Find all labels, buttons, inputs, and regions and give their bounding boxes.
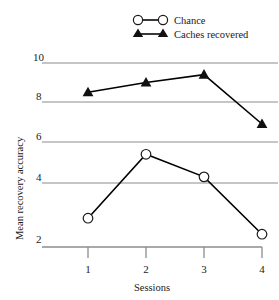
- chart-legend: Chance Caches recovered: [133, 15, 249, 40]
- data-point-open-circle[interactable]: [257, 229, 267, 239]
- y-axis-tick-labels: 10 8 6 4 2: [33, 51, 45, 245]
- series-line: [88, 75, 262, 124]
- legend-item-caches-recovered[interactable]: Caches recovered: [133, 28, 249, 40]
- x-axis: [42, 247, 262, 258]
- x-axis-tick-labels: 1 2 3 4: [85, 263, 265, 275]
- y-tick-label-2: 2: [36, 233, 42, 245]
- filled-triangle-icon: [158, 28, 168, 37]
- y-tick-label-4: 4: [36, 171, 42, 183]
- x-tick-label-4: 4: [259, 263, 265, 275]
- data-point-open-circle[interactable]: [199, 172, 209, 182]
- recovery-accuracy-line-chart: Chance Caches recovered 10 8 6 4 2 Mean: [0, 0, 279, 300]
- data-point-filled-triangle[interactable]: [199, 69, 210, 79]
- chart-container: Chance Caches recovered 10 8 6 4 2 Mean: [0, 0, 279, 300]
- x-tick-label-2: 2: [143, 263, 149, 275]
- data-point-open-circle[interactable]: [83, 213, 93, 223]
- x-tick-label-1: 1: [85, 263, 91, 275]
- series-chance: [83, 150, 267, 240]
- x-tick-label-3: 3: [201, 263, 207, 275]
- legend-label-caches-recovered: Caches recovered: [174, 29, 249, 40]
- y-tick-label-6: 6: [36, 130, 42, 142]
- series-line: [88, 154, 262, 234]
- chart-series-layer: [83, 69, 268, 239]
- x-axis-title: Sessions: [134, 282, 170, 293]
- filled-triangle-icon: [133, 28, 143, 37]
- y-tick-label-8: 8: [36, 90, 42, 102]
- data-point-open-circle[interactable]: [141, 150, 151, 160]
- series-caches-recovered: [83, 69, 268, 128]
- legend-item-chance[interactable]: Chance: [133, 15, 205, 26]
- y-axis-title: Mean recovery accuracy: [14, 136, 25, 240]
- y-tick-label-10: 10: [33, 51, 45, 63]
- legend-label-chance: Chance: [174, 15, 206, 26]
- open-circle-icon: [133, 15, 142, 24]
- open-circle-icon: [158, 15, 167, 24]
